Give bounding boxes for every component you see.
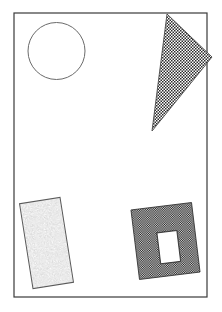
circle-shape [28, 23, 85, 80]
shapes-figure [0, 0, 222, 312]
rectangle-hole [157, 231, 181, 264]
dark-rectangle-with-hole-shape [131, 203, 200, 280]
figure-canvas [0, 0, 222, 312]
